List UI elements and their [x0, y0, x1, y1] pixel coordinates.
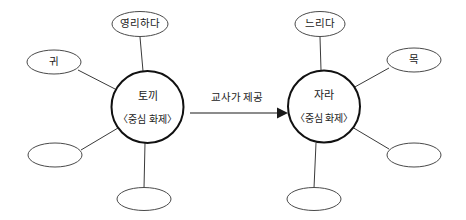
connector-arrow-label: 교사가 제공	[211, 91, 264, 103]
core-node-rabbit-title: 토끼	[138, 90, 158, 102]
edge-rabbit-clever	[140, 37, 143, 71]
node-terrapin-blank-bottom-shape	[287, 188, 341, 211]
node-ear-label: 귀	[49, 55, 59, 67]
core-node-terrapin-shape	[288, 71, 360, 143]
node-terrapin-blank-right[interactable]	[387, 143, 441, 167]
edge-terrapin-blank-bottom	[314, 143, 316, 188]
core-node-rabbit-subtitle: 〈중심 화제〉	[118, 114, 177, 125]
core-node-terrapin[interactable]: 자라 〈중심 화제〉	[288, 71, 360, 143]
core-node-terrapin-subtitle: 〈중심 화제〉	[295, 113, 354, 124]
diagram-canvas: 영리하다 귀 토끼 〈중심 화제〉	[0, 0, 466, 220]
node-ear[interactable]: 귀	[27, 50, 81, 74]
edge-terrapin-slow	[320, 37, 321, 70]
connector-arrow-head	[277, 108, 288, 119]
concept-map-diagram: 영리하다 귀 토끼 〈중심 화제〉	[0, 0, 466, 220]
node-rabbit-blank-left-shape	[28, 143, 82, 167]
edge-terrapin-blank-right	[352, 127, 389, 149]
node-neck[interactable]: 목	[387, 48, 441, 72]
node-slow-label: 느리다	[305, 17, 335, 29]
node-slow[interactable]: 느리다	[295, 12, 345, 37]
core-node-rabbit[interactable]: 토끼 〈중심 화제〉	[112, 71, 184, 143]
cluster-terrapin: 느리다 목 자라 〈중심 화제〉	[287, 12, 441, 211]
edge-terrapin-neck	[353, 68, 389, 88]
node-clever-label: 영리하다	[120, 17, 160, 29]
core-node-terrapin-title: 자라	[314, 89, 334, 101]
cluster-rabbit: 영리하다 귀 토끼 〈중심 화제〉	[27, 12, 184, 211]
node-terrapin-blank-bottom[interactable]	[287, 188, 341, 211]
core-node-rabbit-shape	[112, 71, 184, 143]
node-rabbit-blank-bottom[interactable]	[117, 188, 171, 211]
edge-rabbit-blank-left	[81, 128, 118, 150]
node-rabbit-blank-bottom-shape	[117, 188, 171, 211]
edge-rabbit-ear	[78, 70, 117, 90]
node-neck-label: 목	[409, 53, 419, 65]
connector-arrow: 교사가 제공	[190, 91, 288, 119]
node-rabbit-blank-left[interactable]	[28, 143, 82, 167]
edge-rabbit-blank-bottom	[144, 143, 145, 188]
node-clever[interactable]: 영리하다	[112, 12, 168, 37]
node-terrapin-blank-right-shape	[387, 143, 441, 167]
